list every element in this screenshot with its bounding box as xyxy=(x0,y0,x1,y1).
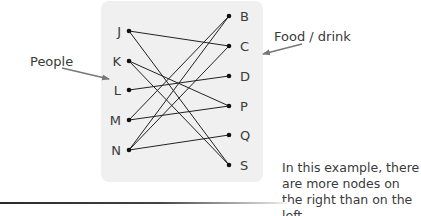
food-drink-label: Food / drink xyxy=(274,29,351,44)
node-label: C xyxy=(240,39,249,54)
graph-background-box xyxy=(101,1,263,182)
node-label: B xyxy=(240,9,249,24)
node-dot xyxy=(127,88,132,93)
node-label: L xyxy=(114,83,122,98)
node-label: J xyxy=(116,24,121,39)
node-label: P xyxy=(240,99,248,114)
node-label: Q xyxy=(240,128,250,143)
node-dot xyxy=(227,104,232,109)
node-dot xyxy=(127,118,132,123)
bottom-divider xyxy=(0,202,290,204)
people-label: People xyxy=(30,54,73,69)
node-dot xyxy=(127,148,132,153)
node-label: M xyxy=(110,113,121,128)
food-drink-arrow-icon xyxy=(263,44,302,54)
node-dot xyxy=(227,44,232,49)
node-dot xyxy=(127,59,132,64)
node-dot xyxy=(227,74,232,79)
node-dot xyxy=(227,14,232,19)
explanation-note: In this example, there are more nodes on… xyxy=(282,160,421,216)
node-dot xyxy=(127,29,132,34)
node-label: D xyxy=(240,69,250,84)
node-label: K xyxy=(112,54,121,69)
node-label: N xyxy=(111,143,121,158)
node-dot xyxy=(227,133,232,138)
node-label: S xyxy=(240,158,248,173)
node-dot xyxy=(227,163,232,168)
